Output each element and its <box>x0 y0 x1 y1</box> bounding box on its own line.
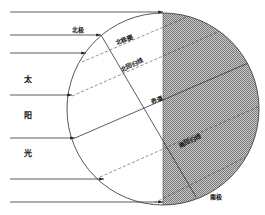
sunlight-label-char-1: 太 <box>24 76 32 84</box>
diagram-graphics <box>0 0 265 215</box>
sun-rays <box>10 12 163 202</box>
sunlight-label-char-2: 阳 <box>24 112 32 120</box>
earth-illumination-diagram: 太 阳 光 北极 北极圈 北回归线 赤道 南回归线 南极 <box>0 0 265 215</box>
south-pole-label: 南极 <box>210 194 222 200</box>
sunlight-label-char-3: 光 <box>24 150 32 158</box>
north-pole-label: 北极 <box>72 27 84 33</box>
night-hemisphere <box>163 13 259 205</box>
